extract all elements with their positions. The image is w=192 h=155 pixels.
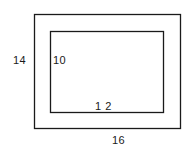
outer-height-label: 14 bbox=[13, 55, 26, 66]
inner-height-label: 10 bbox=[53, 55, 66, 66]
rectangles-figure bbox=[0, 0, 192, 155]
outer-width-label: 16 bbox=[112, 135, 125, 146]
inner-width-label: 1 2 bbox=[95, 101, 112, 112]
